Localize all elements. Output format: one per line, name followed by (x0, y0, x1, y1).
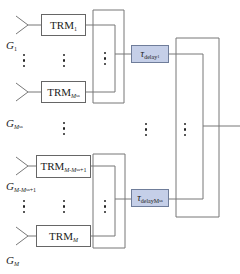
delay-msa-box: τdelayMsa (131, 189, 169, 207)
ellipsis-icon (63, 200, 66, 216)
ellipsis-icon (63, 122, 66, 138)
delay-1-box: τdelay1 (131, 45, 169, 63)
gain-label-gmmsa1: GM-Msa+1 (6, 181, 36, 193)
trm-msa-box: TRMMsa (41, 81, 86, 103)
trm-m-box: TRMM (36, 225, 91, 247)
gain-label-gmsa: GMsa (6, 118, 23, 130)
trm-msa-label: TRMMsa (47, 86, 80, 99)
antenna-icon (16, 83, 41, 101)
ellipsis-icon (23, 54, 26, 70)
antenna-icon (16, 157, 36, 175)
ellipsis-icon (104, 52, 107, 68)
delay-1-label: τdelay1 (141, 48, 160, 60)
trm-1-label: TRM1 (50, 19, 77, 32)
ellipsis-icon (23, 200, 26, 216)
antenna-icon (16, 16, 41, 34)
trm-1-box: TRM1 (41, 14, 86, 36)
trm-m-msa-1-label: TRMM-Msa+1 (41, 160, 87, 173)
trm-m-msa-1-box: TRMM-Msa+1 (36, 155, 91, 178)
delay-msa-label: τdelayMsa (137, 192, 163, 204)
ellipsis-icon (184, 123, 187, 139)
gain-label-gm: GM (6, 255, 19, 267)
ellipsis-icon (63, 54, 66, 70)
gain-label-g1: G1 (6, 40, 17, 52)
ellipsis-icon (145, 123, 148, 139)
ellipsis-icon (104, 200, 107, 216)
antenna-icon (16, 227, 36, 245)
trm-m-label: TRMM (49, 230, 78, 243)
